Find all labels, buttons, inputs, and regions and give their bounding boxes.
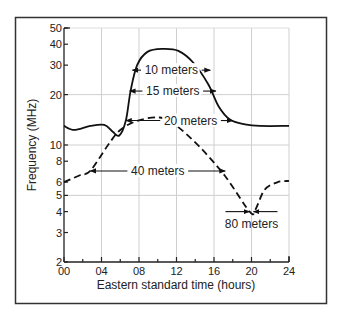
x-tick-label: 24 (283, 265, 295, 277)
annotation-40-meters: 40 meters (131, 164, 184, 178)
frequency-time-chart: 234568102030405000040812162024 10 meters… (0, 0, 339, 315)
x-tick-label: 08 (133, 265, 145, 277)
y-tick-label: 30 (50, 59, 62, 71)
y-tick-label: 20 (50, 89, 62, 101)
x-tick-label: 04 (95, 265, 107, 277)
x-axis-title: Eastern standard time (hours) (97, 278, 256, 292)
annotation-10-meters: 10 meters (145, 63, 198, 77)
x-tick-label: 12 (170, 265, 182, 277)
x-tick-label: 16 (208, 265, 220, 277)
annotation-20-meters: 20 meters (164, 114, 217, 128)
y-tick-label: 3 (56, 227, 62, 239)
y-tick-label: 40 (50, 38, 62, 50)
y-tick-label: 5 (56, 189, 62, 201)
y-tick-label: 8 (56, 155, 62, 167)
y-tick-label: 10 (50, 139, 62, 151)
y-tick-label: 6 (56, 176, 62, 188)
annotation-80-meters: 80 meters (225, 217, 278, 231)
y-tick-label: 50 (50, 22, 62, 34)
annotation-15-meters: 15 meters (146, 84, 199, 98)
y-axis-title: Frequency (MHz) (25, 99, 39, 192)
x-tick-label: 00 (58, 265, 70, 277)
y-tick-label: 4 (56, 206, 62, 218)
x-tick-label: 20 (245, 265, 257, 277)
chart-frame (16, 18, 327, 304)
